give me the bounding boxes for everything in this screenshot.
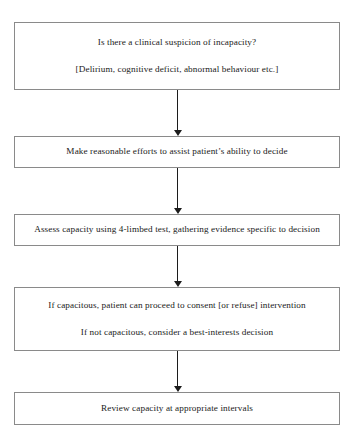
clinical-suspicion-line-1: Is there a clinical suspicion of incapac… <box>98 37 256 49</box>
clinical-suspicion-box: Is there a clinical suspicion of incapac… <box>14 22 340 90</box>
arrow-shaft <box>177 351 178 386</box>
arrow-shaft <box>177 246 178 281</box>
capacitous-outcome-line-2: If not capacitous, consider a best-inter… <box>81 327 273 339</box>
capacitous-outcome-line-1: If capacitous, patient can proceed to co… <box>48 300 306 312</box>
arrow-shaft <box>177 90 178 130</box>
assist-ability-box: Make reasonable efforts to assist patien… <box>14 136 340 168</box>
down-arrow-icon-3 <box>171 246 185 287</box>
arrow-shaft <box>177 168 178 208</box>
down-arrow-icon-2 <box>171 168 185 214</box>
assess-capacity-line-1: Assess capacity using 4-limbed test, gat… <box>34 224 320 236</box>
clinical-suspicion-line-2: [Delirium, cognitive deficit, abnormal b… <box>76 64 279 76</box>
assess-capacity-box: Assess capacity using 4-limbed test, gat… <box>14 214 340 246</box>
capacity-flowchart: Is there a clinical suspicion of incapac… <box>0 0 356 436</box>
capacitous-outcome-box: If capacitous, patient can proceed to co… <box>14 287 340 351</box>
down-arrow-icon-1 <box>171 90 185 136</box>
review-capacity-box: Review capacity at appropriate intervals <box>14 392 340 425</box>
down-arrow-icon-4 <box>171 351 185 392</box>
assist-ability-line-1: Make reasonable efforts to assist patien… <box>66 146 287 158</box>
review-capacity-line-1: Review capacity at appropriate intervals <box>101 403 253 415</box>
